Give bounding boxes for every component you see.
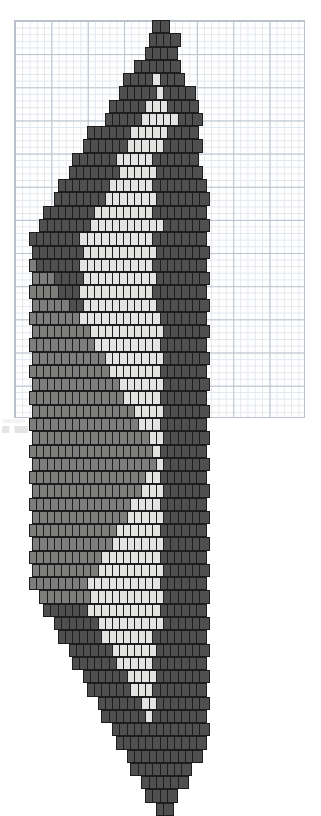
bead-cell [199,723,210,736]
bead-cell [199,378,210,391]
bead-cell [192,750,203,763]
bead-cell [199,590,210,603]
scanner-smudge [2,426,28,433]
bead-cell [199,192,210,205]
bead-cell [199,644,210,657]
bead-cell [196,657,207,670]
bead-cell [199,564,210,577]
bead-cell [199,537,210,550]
bead-cell [196,445,207,458]
bead-cell [199,219,210,232]
bead-cell [192,113,203,126]
bead-pattern-canvas [14,20,305,418]
bead-cell [196,471,207,484]
bead-cell [196,710,207,723]
bead-cell [170,60,181,73]
bead-cell [196,683,207,696]
bead-cell [196,206,207,219]
bead-cell [160,20,171,33]
bead-cell [196,577,207,590]
bead-cell [199,697,210,710]
bead-cell [196,179,207,192]
bead-cell [196,418,207,431]
bead-cell [167,789,178,802]
bead-cell [196,630,207,643]
bead-cell [199,299,210,312]
bead-cell [196,338,207,351]
bead-cell [181,763,192,776]
bead-cell [199,325,210,338]
bead-cell [167,47,178,60]
bead-cell [196,551,207,564]
bead-cell [199,352,210,365]
bead-cell [185,86,196,99]
bead-cell [199,617,210,630]
bead-cell [192,166,203,179]
bead-cell [199,458,210,471]
bead-cell [163,803,174,816]
bead-cell [199,511,210,524]
bead-cell [196,391,207,404]
bead-cell [199,670,210,683]
bead-cell [196,524,207,537]
bead-cell [189,153,200,166]
bead-cell [178,776,189,789]
bead-cell [196,232,207,245]
bead-cell [192,139,203,152]
scanner-smudge-upper [3,419,25,423]
bead-cell [199,246,210,259]
bead-cell [189,126,200,139]
bead-cell [199,484,210,497]
bead-cell [196,259,207,272]
bead-cell [196,312,207,325]
bead-cell [196,285,207,298]
bead-cell [199,431,210,444]
bead-cell [170,33,181,46]
bead-cell [199,405,210,418]
bead-cell [196,365,207,378]
bead-cell [174,73,185,86]
bead-cell [199,272,210,285]
bead-cell [196,604,207,617]
bead-cell [196,498,207,511]
bead-cell [196,736,207,749]
bead-cell [189,100,200,113]
